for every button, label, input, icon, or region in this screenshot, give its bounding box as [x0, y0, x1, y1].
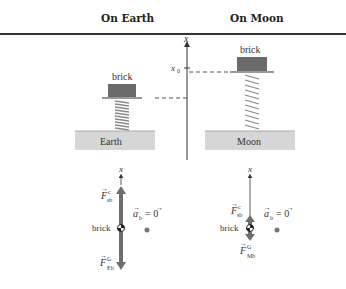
moon-scene: brick Moon: [205, 44, 295, 150]
earth-contact-force-subscript: sb: [107, 197, 112, 203]
svg-text:→: →: [240, 240, 247, 248]
position-axis: x x 0: [170, 33, 190, 160]
earth-gravity-force-subscript: Eb: [107, 265, 114, 271]
moon-gravity-force-superscript: G: [247, 244, 252, 250]
moon-fbd-brick-label: brick: [220, 223, 239, 233]
earth-scene: brick Earth: [75, 71, 155, 150]
svg-text:→: →: [100, 252, 107, 260]
svg-text:→: →: [264, 204, 271, 212]
svg-text:→: →: [101, 185, 108, 193]
earth-fbd-axis-label: x: [118, 164, 123, 174]
moon-fbd-axis-label: x: [247, 164, 252, 174]
moon-brick-label: brick: [240, 44, 261, 55]
axis-label: x: [183, 33, 189, 44]
x0-subscript: 0: [177, 68, 180, 74]
moon-gravity-force-subscript: Mb: [247, 253, 255, 259]
earth-brick: [108, 84, 136, 97]
moon-contact-force-subscript: sb: [237, 212, 242, 218]
x0-label: x: [170, 63, 175, 73]
earth-spring-plate: [102, 97, 142, 99]
moon-free-body-diagram: x brick F → c sb F → G Mb a → b = 0 →: [220, 164, 294, 259]
svg-text:→: →: [287, 204, 294, 212]
moon-brick: [237, 57, 267, 71]
svg-text:→: →: [133, 204, 140, 212]
moon-spring: [245, 75, 259, 129]
earth-free-body-diagram: x brick F → c sb F → G Eb a → b = 0 →: [92, 164, 163, 271]
moon-acceleration-subscript: b: [270, 215, 273, 221]
moon-spring-plate: [230, 71, 274, 73]
svg-text:→: →: [231, 200, 238, 208]
earth-ground-label: Earth: [100, 136, 122, 147]
moon-contact-force-superscript: c: [238, 204, 241, 210]
earth-center-of-mass-icon: [118, 225, 125, 232]
moon-center-of-mass-icon: [247, 225, 254, 232]
earth-spring: [115, 101, 129, 130]
moon-ground-label: Moon: [237, 136, 261, 147]
earth-gravity-force-superscript: G: [107, 256, 112, 262]
physics-diagram: x x 0 brick Earth brick: [0, 0, 346, 289]
earth-contact-force-superscript: c: [108, 189, 111, 195]
svg-text:→: →: [156, 204, 163, 212]
moon-acceleration-dot: [275, 228, 280, 233]
earth-fbd-brick-label: brick: [92, 223, 111, 233]
earth-acceleration-subscript: b: [139, 215, 142, 221]
earth-acceleration-dot: [145, 228, 150, 233]
earth-brick-label: brick: [112, 71, 133, 82]
